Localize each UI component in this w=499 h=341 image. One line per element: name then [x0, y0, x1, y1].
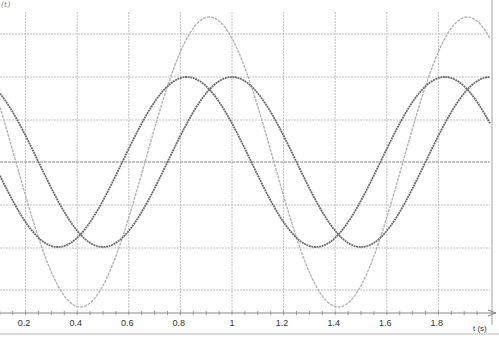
- x-tick-label: 0.4: [69, 318, 82, 328]
- chart: [0, 0, 499, 341]
- x-tick-label: 0.6: [121, 318, 134, 328]
- x-tick-label: 1.2: [276, 318, 289, 328]
- x-tick-label: 1.8: [431, 318, 444, 328]
- x-tick-label: 1: [229, 318, 234, 328]
- x-tick-label: 0.8: [173, 318, 186, 328]
- x-tick-label: 0.2: [18, 318, 31, 328]
- x-axis-label: t (s): [473, 324, 487, 333]
- y-axis-label: (t): [1, 0, 10, 9]
- x-tick-label: 1.4: [327, 318, 340, 328]
- x-tick-label: 1.6: [379, 318, 392, 328]
- grid-lines: [0, 0, 492, 325]
